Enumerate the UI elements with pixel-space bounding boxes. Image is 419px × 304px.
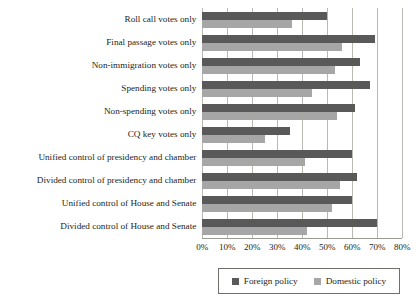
bar-domestic-policy [202,181,340,189]
x-tick-label: 80% [394,242,411,252]
bar-group: Non-spending votes only [202,100,402,123]
bar-foreign-policy [202,12,327,20]
bar-group: Final passage votes only [202,31,402,54]
legend-item-domestic-policy: Domestic policy [314,276,386,286]
bar-foreign-policy [202,127,290,135]
bar-foreign-policy [202,173,357,181]
x-axis-line [202,238,402,239]
bar-foreign-policy [202,81,370,89]
x-tick-label: 0% [196,242,208,252]
bar-domestic-policy [202,112,337,120]
legend-item-foreign-policy: Foreign policy [232,276,298,286]
bar-foreign-policy [202,58,360,66]
plot-area: Roll call votes onlyFinal passage votes … [202,8,402,238]
category-label: Non-spending votes only [104,106,202,116]
bar-group: Non-immigration votes only [202,54,402,77]
bar-group: Divided control of House and Senate [202,215,402,238]
bar-group: Unified control of presidency and chambe… [202,146,402,169]
bar-domestic-policy [202,135,265,143]
bar-domestic-policy [202,227,307,235]
x-tick-label: 50% [319,242,336,252]
x-tick-label: 10% [219,242,236,252]
bar-domestic-policy [202,89,312,97]
category-label: Divided control of House and Senate [60,221,202,231]
gridline-80 [402,8,403,238]
legend-label-domestic-policy: Domestic policy [326,276,386,286]
bar-foreign-policy [202,104,355,112]
bar-domestic-policy [202,158,305,166]
bar-foreign-policy [202,196,352,204]
category-label: Spending votes only [121,83,202,93]
category-label: Roll call votes only [125,14,203,24]
bar-domestic-policy [202,66,335,74]
bar-group: Roll call votes only [202,8,402,31]
category-label: Divided control of presidency and chambe… [37,175,202,185]
bar-chart: Roll call votes onlyFinal passage votes … [0,0,419,304]
bar-domestic-policy [202,43,342,51]
x-tick-label: 70% [369,242,386,252]
x-tick-label: 30% [269,242,286,252]
bar-domestic-policy [202,204,332,212]
chart-legend: Foreign policy Domestic policy [218,268,400,294]
x-tick-label: 20% [244,242,261,252]
category-label: Unified control of House and Senate [62,198,202,208]
bar-foreign-policy [202,219,377,227]
legend-swatch-icon-foreign-policy [232,278,239,285]
bar-domestic-policy [202,20,292,28]
category-label: Unified control of presidency and chambe… [38,152,202,162]
x-tick-label: 40% [294,242,311,252]
bar-group: CQ key votes only [202,123,402,146]
bar-foreign-policy [202,35,375,43]
x-tick-label: 60% [344,242,361,252]
x-axis-tick-labels: 0%10%20%30%40%50%60%70%80% [202,242,402,256]
legend-label-foreign-policy: Foreign policy [244,276,298,286]
bar-foreign-policy [202,150,352,158]
bar-group: Divided control of presidency and chambe… [202,169,402,192]
legend-swatch-icon-domestic-policy [314,278,321,285]
bar-group: Unified control of House and Senate [202,192,402,215]
bar-group: Spending votes only [202,77,402,100]
category-label: Non-immigration votes only [92,60,203,70]
category-label: CQ key votes only [128,129,203,139]
category-label: Final passage votes only [106,37,202,47]
